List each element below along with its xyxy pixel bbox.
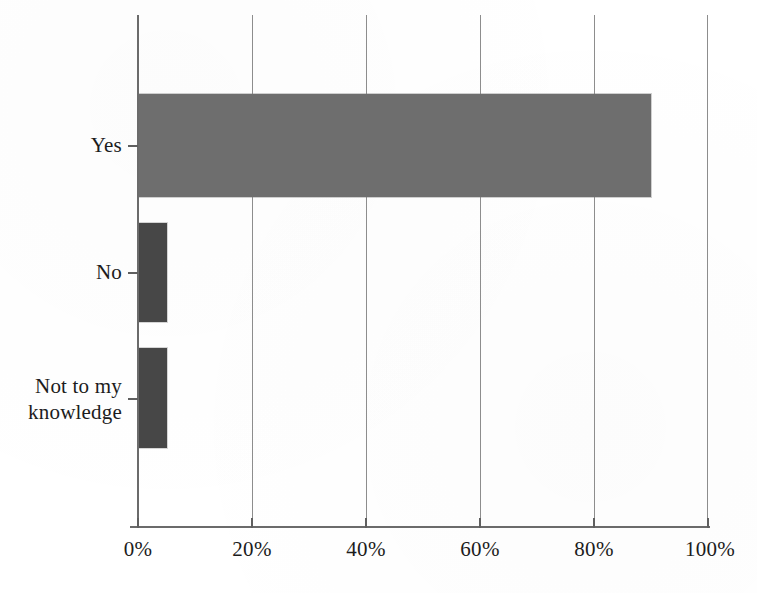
x-tick-0 <box>137 518 139 528</box>
y-axis-label-yes-text: Yes <box>8 133 122 158</box>
bar-not-to-my-knowledge <box>138 348 167 448</box>
x-tick-100 <box>707 518 709 528</box>
x-tick-80 <box>593 518 595 528</box>
y-tick-no <box>128 272 138 274</box>
x-axis-label-100: 100% <box>685 536 735 562</box>
x-axis-label-40: 40% <box>346 536 385 562</box>
horizontal-bar-chart: Yes No Not to my knowledge 0% 20% 40% 60… <box>0 0 757 593</box>
bar-no <box>138 223 167 322</box>
x-tick-40 <box>365 518 367 528</box>
y-tick-yes <box>128 145 138 147</box>
gridline-20 <box>252 15 253 527</box>
plot-area <box>138 15 708 527</box>
x-axis-label-80: 80% <box>574 536 613 562</box>
y-tick-not-to-my-knowledge <box>128 398 138 400</box>
x-axis-label-60: 60% <box>460 536 499 562</box>
gridline-100 <box>707 15 708 527</box>
gridline-40 <box>366 15 367 527</box>
x-axis-line <box>130 526 710 528</box>
bar-yes <box>138 94 651 197</box>
y-axis-label-not-to-my-knowledge-line1: Not to my <box>8 374 122 399</box>
y-axis-label-no-text: No <box>8 260 122 285</box>
x-tick-20 <box>251 518 253 528</box>
gridline-60 <box>480 15 481 527</box>
gridline-80 <box>594 15 595 527</box>
x-axis-label-20: 20% <box>232 536 271 562</box>
x-axis-label-0: 0% <box>124 536 153 562</box>
x-tick-60 <box>479 518 481 528</box>
y-axis-label-not-to-my-knowledge-line2: knowledge <box>8 400 122 425</box>
